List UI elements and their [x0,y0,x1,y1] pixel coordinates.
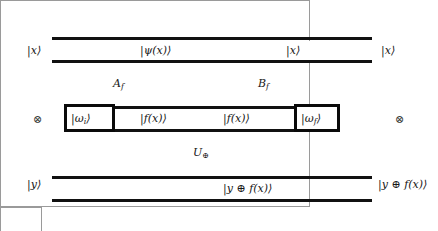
omega-f-label: |ωf⟩ [301,113,321,126]
gate-a-f-base: A [113,77,121,90]
gate-u-oplus-base: U [193,146,202,159]
gate-a-f-label: Af [113,78,124,91]
gate-a-f-subscript: f [121,82,124,91]
x-after-b-label: |x⟩ [286,45,300,56]
gate-b-f-base: B [258,77,266,90]
wire-top-lower [52,60,372,63]
omega-i-bra: |ω [71,112,84,125]
wire-bottom-upper [52,176,372,179]
omega-i-label: |ωi⟩ [71,113,91,126]
y-xor-f-x-label: |y ⊕ f(x)⟩ [223,183,272,194]
omega-f-ket-close: ⟩ [317,112,321,125]
gate-u-oplus-label: U⊕ [193,147,209,160]
input-register-top-label: |x⟩ [27,45,41,56]
gate-b-f-label: Bf [258,78,269,91]
gate-b-f-subscript: f [266,82,269,91]
output-register-bottom-label: |y ⊕ f(x)⟩ [378,179,427,190]
wire-bottom-lower [52,199,372,202]
output-register-top-label: |x⟩ [381,45,395,56]
wire-top-upper [52,37,372,40]
output-register-tensor-icon: ⊗ [395,114,404,125]
omega-i-ket-close: ⟩ [86,112,90,125]
input-register-tensor-icon: ⊗ [33,114,42,125]
f-x-right-label: |f(x)⟩ [223,113,250,124]
quantum-circuit-figure: |x⟩ ⊗ |y⟩ |x⟩ ⊗ |y ⊕ f(x)⟩ Af Bf U⊕ |ψ(x… [0,0,438,231]
f-x-left-label: |f(x)⟩ [140,113,167,124]
psi-x-label: |ψ(x)⟩ [140,45,171,56]
input-register-box [0,207,42,231]
input-register-bottom-label: |y⟩ [27,179,41,190]
gate-u-oplus-subscript: ⊕ [202,151,209,160]
omega-f-bra: |ω [301,112,314,125]
